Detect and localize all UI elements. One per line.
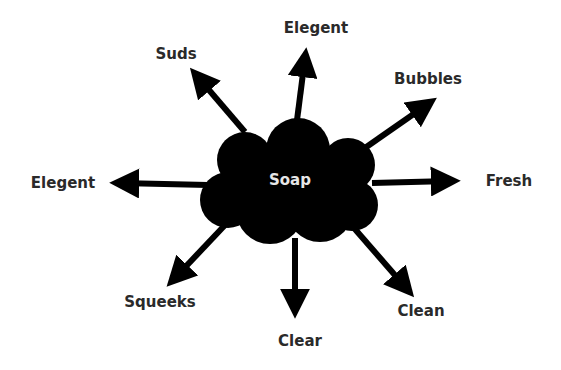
arrow-fresh [372, 181, 450, 183]
branch-label-squeeks: Squeeks [124, 293, 195, 311]
branch-label-fresh: Fresh [486, 172, 532, 190]
arrow-elegent-left [120, 183, 208, 185]
arrow-squeeks [174, 224, 226, 279]
branch-label-elegent-left: Elegent [31, 174, 95, 192]
branch-label-clear: Clear [278, 332, 322, 350]
arrow-bubbles [362, 104, 428, 150]
arrow-clean [354, 228, 407, 289]
branch-label-bubbles: Bubbles [394, 70, 462, 88]
arrow-elegent-top [296, 58, 305, 128]
arrow-suds [197, 76, 245, 132]
branch-label-elegent-top: Elegent [284, 19, 348, 37]
branch-label-clean: Clean [397, 302, 444, 320]
branch-label-suds: Suds [155, 45, 196, 63]
center-node-label: Soap [269, 171, 311, 189]
